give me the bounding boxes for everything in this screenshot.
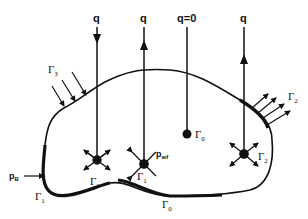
well-pressure-label: pwf <box>156 149 169 160</box>
reservoir-boundary <box>43 70 272 197</box>
diagram-svg: q q q=0 q Γ3 Γ2 Γ3 Γ1 pwf Γ0 <box>0 0 308 219</box>
boundary-gamma0-bottom-segment <box>118 180 222 196</box>
flux-label-q1: q <box>93 12 100 24</box>
well-label-gamma2: Γ2 <box>258 150 268 165</box>
arrow-up-icon <box>240 54 248 64</box>
well-gamma0-icon <box>183 130 192 139</box>
flux-label-q0: q=0 <box>177 12 196 24</box>
well-label-gamma1: Γ1 <box>137 170 147 185</box>
boundary-gamma1-left-segment <box>43 145 110 196</box>
boundary-label-gamma2: Γ2 <box>288 90 298 105</box>
flux-label-q3: q <box>240 12 247 24</box>
boundary-label-gamma3: Γ3 <box>48 63 58 78</box>
boundary-pressure-label: pB <box>9 171 20 182</box>
flux-label-q2: q <box>140 12 147 24</box>
well-label-gamma0: Γ0 <box>195 128 205 143</box>
boundary-label-gamma0: Γ0 <box>162 198 172 213</box>
gamma2-outflow-arrows <box>252 94 290 125</box>
reservoir-boundary-diagram: q q q=0 q Γ3 Γ2 Γ3 Γ1 pwf Γ0 <box>0 0 308 219</box>
arrow-up-icon <box>140 40 148 50</box>
arrow-down-icon <box>93 34 101 44</box>
boundary-label-gamma1: Γ1 <box>35 190 45 205</box>
